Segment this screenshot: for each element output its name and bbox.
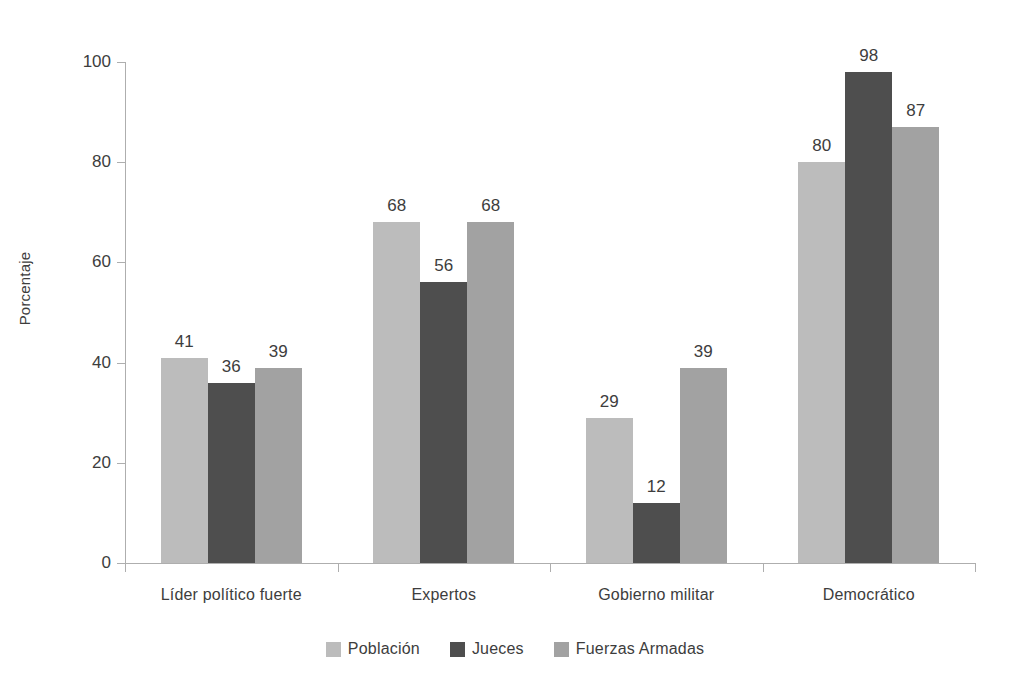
y-axis-tick-label: 0 [51, 554, 111, 571]
y-axis-tick-label: 60 [51, 253, 111, 270]
legend-swatch-icon [326, 642, 341, 657]
legend-swatch-icon [554, 642, 569, 657]
y-axis-tick [117, 62, 125, 63]
bar-value-label: 98 [845, 47, 892, 64]
bar-value-label: 12 [633, 478, 680, 495]
bar-value-label: 29 [586, 393, 633, 410]
bar [373, 222, 420, 563]
bar [586, 418, 633, 563]
x-axis-tick [338, 563, 339, 572]
legend-item[interactable]: Fuerzas Armadas [554, 640, 704, 658]
bar [892, 127, 939, 563]
x-axis-tick [125, 563, 126, 572]
bar [208, 383, 255, 563]
bar-value-label: 36 [208, 358, 255, 375]
legend-label: Jueces [472, 640, 524, 658]
y-axis-tick-label: 40 [51, 354, 111, 371]
y-axis-tick-label: 80 [51, 153, 111, 170]
bar-value-label: 68 [467, 197, 514, 214]
y-axis-tick [117, 262, 125, 263]
x-axis-tick [975, 563, 976, 572]
bar [255, 368, 302, 563]
bar [680, 368, 727, 563]
y-axis-title: Porcentaje [16, 229, 33, 349]
plot-area [125, 62, 975, 563]
bar [420, 282, 467, 563]
x-axis-tick [763, 563, 764, 572]
bar-value-label: 39 [255, 343, 302, 360]
y-axis-tick [117, 162, 125, 163]
bar-value-label: 87 [892, 102, 939, 119]
legend-label: Fuerzas Armadas [576, 640, 704, 658]
y-axis-tick-label: 100 [51, 53, 111, 70]
legend-swatch-icon [450, 642, 465, 657]
legend-item[interactable]: Jueces [450, 640, 524, 658]
bar [161, 358, 208, 563]
bar-value-label: 56 [420, 257, 467, 274]
y-axis-tick [117, 363, 125, 364]
bar-value-label: 80 [798, 137, 845, 154]
bar [798, 162, 845, 563]
bar-value-label: 39 [680, 343, 727, 360]
y-axis-tick [117, 563, 125, 564]
x-axis-tick [550, 563, 551, 572]
legend-label: Población [348, 640, 420, 658]
x-axis-category-label: Líder político fuerte [125, 586, 338, 604]
y-axis-tick [117, 463, 125, 464]
x-axis-category-label: Expertos [338, 586, 551, 604]
bar [845, 72, 892, 563]
bar-chart: Porcentaje 020406080100 4136396856682912… [0, 0, 1030, 699]
legend-item[interactable]: Población [326, 640, 420, 658]
chart-legend: PoblaciónJuecesFuerzas Armadas [0, 640, 1030, 658]
x-axis-category-label: Democrático [763, 586, 976, 604]
bar [467, 222, 514, 563]
bar-value-label: 41 [161, 333, 208, 350]
y-axis-tick-label: 20 [51, 454, 111, 471]
bar [633, 503, 680, 563]
bar-value-label: 68 [373, 197, 420, 214]
x-axis-category-label: Gobierno militar [550, 586, 763, 604]
